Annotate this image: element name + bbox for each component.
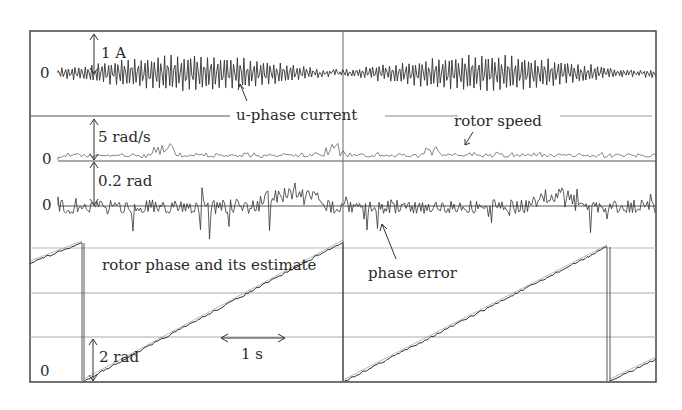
- trace-path: [30, 241, 82, 261]
- phase-name-label: rotor phase and its estimate: [102, 258, 316, 273]
- trace-path: [58, 55, 656, 91]
- trace-path: [610, 359, 656, 381]
- error-zero-label: 0: [42, 198, 52, 213]
- error-pointer: [382, 224, 396, 259]
- current-name-label: u-phase current: [236, 108, 357, 123]
- trace-path: [30, 243, 82, 264]
- trace-path: [610, 357, 656, 379]
- trace-path: [607, 247, 610, 381]
- error-trace: [58, 183, 655, 239]
- current-pointer: [240, 84, 247, 101]
- current-scale-label: 1 A: [101, 46, 126, 61]
- error-name-label: phase error: [368, 266, 457, 281]
- figure: 0 1 A u-phase current rotor speed 0 5 ra…: [0, 0, 682, 410]
- trace-path: [82, 243, 84, 381]
- phase-zero-label: 0: [40, 364, 50, 379]
- speed-zero-label: 0: [42, 152, 52, 167]
- current-zero-label: 0: [40, 66, 50, 81]
- phase-scale-label: 2 rad: [99, 350, 139, 365]
- speed-scale-label: 5 rad/s: [98, 130, 151, 145]
- trace-path: [58, 183, 655, 239]
- time-scale-label: 1 s: [241, 347, 263, 362]
- speed-name-label: rotor speed: [454, 114, 542, 129]
- current-trace: [58, 55, 656, 91]
- error-scale-label: 0.2 rad: [98, 174, 152, 189]
